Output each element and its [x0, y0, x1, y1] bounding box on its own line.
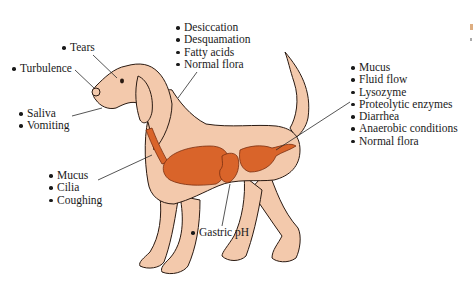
label-item: Anaerobic conditions	[351, 122, 458, 134]
label-item: Gastric pH	[191, 226, 249, 238]
label-item: Saliva	[19, 107, 70, 119]
label-item: Normal flora	[176, 58, 250, 70]
label-item: Desquamation	[176, 33, 250, 45]
label-turbulence: Turbulence	[12, 62, 72, 74]
dog-head	[93, 64, 172, 150]
label-item: Fatty acids	[176, 46, 250, 58]
label-item: Turbulence	[12, 62, 72, 74]
label-intestine: Mucus Fluid flow Lysozyme Proteolytic en…	[351, 61, 458, 147]
label-item: Coughing	[49, 194, 102, 206]
dog-eye	[120, 79, 124, 84]
cropped-mark	[470, 38, 472, 41]
label-item: Diarrhea	[351, 110, 458, 122]
label-respiratory: Mucus Cilia Coughing	[49, 169, 102, 206]
dog-nose	[92, 88, 100, 96]
label-item: Lysozyme	[351, 86, 458, 98]
label-stomach: Gastric pH	[191, 226, 249, 238]
label-item: Mucus	[49, 169, 102, 181]
label-saliva: Saliva Vomiting	[19, 107, 70, 132]
label-item: Proteolytic enzymes	[351, 98, 458, 110]
cropped-mark	[470, 24, 473, 30]
label-item: Mucus	[351, 61, 458, 73]
label-item: Fluid flow	[351, 73, 458, 85]
label-tears: Tears	[62, 41, 95, 53]
label-item: Vomiting	[19, 119, 70, 131]
label-item: Tears	[62, 41, 95, 53]
cropped-edge-marks	[470, 0, 476, 281]
label-item: Normal flora	[351, 135, 458, 147]
dog-hind-leg-front	[222, 176, 262, 261]
label-skin: Desiccation Desquamation Fatty acids Nor…	[176, 21, 250, 70]
label-item: Desiccation	[176, 21, 250, 33]
label-item: Cilia	[49, 181, 102, 193]
dog-tail	[285, 52, 309, 138]
